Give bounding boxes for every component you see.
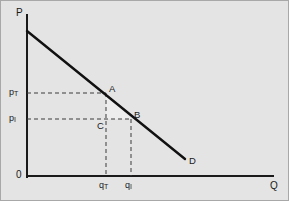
x-axis-label: Q [270,181,278,191]
origin-label: 0 [16,170,22,180]
point-label-b: B [134,110,140,120]
quantity-tick-qt: qT [99,181,108,190]
demand-curve-label: D [189,156,196,166]
demand-curve [27,31,185,159]
point-label-a: A [109,84,115,94]
price-tick-pt: pT [9,88,18,97]
price-tick-pi: pI [9,114,16,123]
demand-curve-figure: P Q 0 pT pI qT qI A B C D [0,0,289,201]
point-label-c: C [97,121,104,131]
quantity-tick-qi: qI [125,181,132,190]
plot-canvas [1,1,289,201]
y-axis-label: P [16,8,23,18]
